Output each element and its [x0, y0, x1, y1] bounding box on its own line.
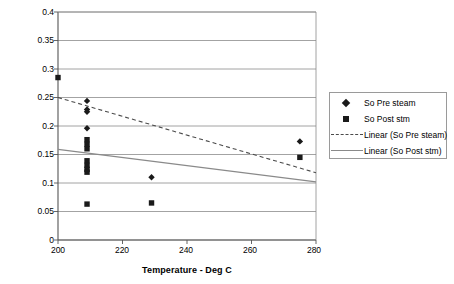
legend-label-2: Linear (So Pre steam): [364, 127, 447, 143]
gridlines: [58, 12, 316, 240]
marker-diamond: [297, 138, 303, 144]
marker-diamond: [84, 98, 90, 104]
legend-item-so-pre-steam: So Pre steam: [330, 95, 448, 111]
marker-square: [55, 75, 60, 80]
data-markers: [55, 75, 303, 207]
diamond-marker-icon: [330, 95, 364, 111]
trendlines: [58, 98, 316, 182]
solid-line-icon: [330, 143, 364, 159]
oil-saturation-chart: Oil Saturation - Fraction Temperature - …: [0, 0, 454, 284]
marker-diamond: [148, 174, 154, 180]
marker-square: [84, 146, 89, 151]
legend-item-linear-post-stm: Linear (So Post stm): [330, 143, 448, 159]
square-marker-icon: [330, 111, 364, 127]
legend-label-3: Linear (So Post stm): [364, 143, 441, 159]
marker-square: [84, 201, 89, 206]
axis-ticks: [54, 12, 316, 244]
trendline-0: [58, 98, 316, 173]
marker-square: [149, 200, 154, 205]
legend-item-linear-pre-steam: Linear (So Pre steam): [330, 127, 448, 143]
legend-item-so-post-stm: So Post stm: [330, 111, 448, 127]
dashed-line-icon: [330, 127, 364, 143]
legend-label-1: So Post stm: [364, 111, 410, 127]
legend-label-0: So Pre steam: [364, 95, 416, 111]
marker-square: [84, 169, 89, 174]
marker-square: [297, 155, 302, 160]
chart-legend: So Pre steam So Post stm Linear (So Pre …: [329, 92, 447, 159]
